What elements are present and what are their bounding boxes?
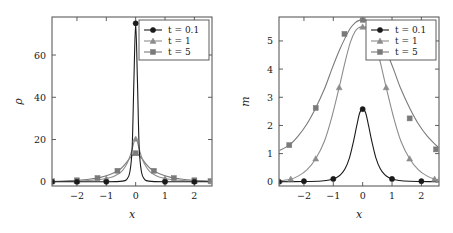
x-tick-label: 2 (418, 190, 424, 201)
square-marker-icon (313, 105, 318, 110)
y-tick-label: 0 (40, 176, 46, 187)
x-tick-label: 0 (133, 190, 139, 201)
legend-label: t = 5 (168, 47, 191, 57)
density-plot-content: −2−10120204060xρt = 0.1t = 1t = 5 (12, 17, 215, 221)
magnetization-panel: −2−1012012345xmt = 0.1t = 1t = 5 (227, 0, 453, 233)
circle-marker-icon (331, 176, 336, 181)
circle-marker-icon (133, 21, 138, 26)
circle-marker-icon (301, 179, 306, 184)
y-tick-label: 0 (267, 176, 273, 187)
y-tick-label: 4 (267, 64, 273, 75)
square-marker-icon (95, 176, 100, 181)
density-panel: −2−10120204060xρt = 0.1t = 1t = 5 (0, 0, 226, 233)
square-marker-icon (342, 31, 347, 36)
square-marker-icon (378, 50, 383, 55)
y-axis-label: m (239, 96, 252, 106)
triangle-marker-icon (133, 136, 139, 141)
y-tick-label: 20 (34, 134, 46, 145)
density-plot-svg: −2−10120204060xρt = 0.1t = 1t = 5 (0, 0, 226, 233)
legend-label: t = 0.1 (168, 25, 199, 35)
y-tick-label: 3 (267, 92, 273, 103)
x-tick-label: −1 (99, 190, 113, 201)
triangle-marker-icon (336, 84, 342, 89)
circle-marker-icon (192, 179, 197, 184)
x-tick-label: −2 (70, 190, 84, 201)
magnetization-plot-svg: −2−1012012345xmt = 0.1t = 1t = 5 (227, 0, 453, 233)
y-tick-label: 60 (34, 50, 46, 61)
x-axis-label: x (356, 208, 363, 221)
y-axis-label: ρ (12, 98, 25, 106)
square-marker-icon (171, 176, 176, 181)
square-marker-icon (434, 147, 439, 152)
square-marker-icon (287, 143, 292, 148)
x-tick-label: 1 (389, 190, 395, 201)
x-tick-label: 2 (191, 190, 197, 201)
circle-marker-icon (74, 179, 79, 184)
y-tick-label: 2 (267, 120, 273, 131)
x-tick-label: 0 (360, 190, 366, 201)
circle-marker-icon (419, 179, 424, 184)
x-axis-label: x (129, 208, 136, 221)
legend-label: t = 1 (168, 36, 191, 46)
circle-marker-icon (104, 179, 109, 184)
series-curve (279, 109, 439, 182)
square-marker-icon (407, 116, 412, 121)
x-tick-label: −2 (297, 190, 311, 201)
circle-marker-icon (360, 107, 365, 112)
y-tick-label: 1 (267, 148, 273, 159)
circle-marker-icon (377, 27, 382, 32)
figure-container: −2−10120204060xρt = 0.1t = 1t = 5 −2−101… (0, 0, 453, 233)
circle-marker-icon (389, 176, 394, 181)
legend-label: t = 5 (395, 47, 418, 57)
legend-label: t = 1 (395, 36, 418, 46)
y-tick-label: 5 (267, 35, 273, 46)
triangle-marker-icon (407, 156, 413, 161)
triangle-marker-icon (313, 156, 319, 161)
y-tick-label: 40 (34, 92, 46, 103)
x-tick-label: 1 (162, 190, 168, 201)
square-marker-icon (360, 17, 365, 22)
magnetization-plot-content: −2−1012012345xmt = 0.1t = 1t = 5 (239, 17, 442, 221)
triangle-marker-icon (383, 84, 389, 89)
square-marker-icon (115, 168, 120, 173)
square-marker-icon (151, 168, 156, 173)
square-marker-icon (133, 151, 138, 156)
legend-label: t = 0.1 (395, 25, 426, 35)
circle-marker-icon (150, 27, 155, 32)
circle-marker-icon (162, 179, 167, 184)
square-marker-icon (151, 50, 156, 55)
x-tick-label: −1 (326, 190, 340, 201)
